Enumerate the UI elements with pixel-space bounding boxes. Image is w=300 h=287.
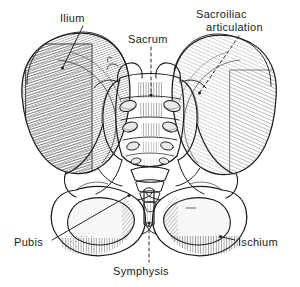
pelvis-illustration: Ilium Sacrum Sacroiliac articulation Pub…	[0, 0, 300, 287]
ilium-left	[18, 30, 138, 197]
label-ischium: Ischium	[238, 236, 278, 249]
label-ilium: Ilium	[60, 12, 85, 25]
ilium-right	[162, 32, 284, 198]
label-sacroiliac-articulation: articulation	[206, 21, 263, 34]
label-pubis: Pubis	[14, 236, 43, 249]
ischium-pubis-left	[51, 182, 152, 262]
label-symphysis: Symphysis	[113, 265, 169, 278]
symphysis-pubis	[144, 188, 154, 227]
label-sacroiliac: Sacroiliac	[196, 8, 247, 21]
label-sacrum: Sacrum	[128, 33, 168, 46]
